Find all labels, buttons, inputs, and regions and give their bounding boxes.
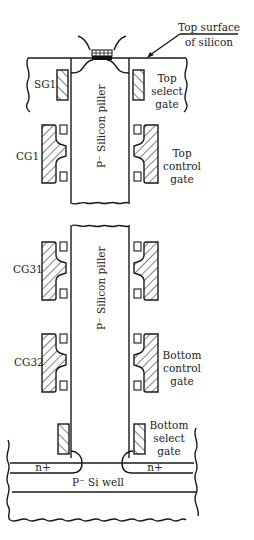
label-pillar-upper: P⁻ Silicon piller [95,83,107,168]
charge-trap-icon [60,242,67,251]
label-top-control-1: Top [172,147,192,159]
left-wavy-edge [27,58,30,112]
label-bottom-select-1: Bottom [150,419,189,431]
top-block: Top surface of silicon SG1 Top select ga… [16,21,240,204]
label-bottom-select-3: gate [157,445,180,457]
label-cg31: CG31 [13,263,43,275]
label-bottom-control-1: Bottom [163,349,202,361]
label-top-select-3: gate [155,98,178,110]
label-top-select-2: select [151,85,183,97]
charge-trap-icon [60,172,67,181]
lower-block: CG31 CG32 Bottom control gate Bottom sel… [7,225,202,521]
nand-cross-section-diagram: Top surface of silicon SG1 Top select ga… [0,0,254,540]
charge-trap-icon [60,334,67,343]
right-wavy-edge [184,58,187,112]
sg1-gate-left [57,70,68,100]
label-cg1: CG1 [16,150,39,162]
charge-trap-icon [134,242,141,251]
label-bottom-select-2: select [153,432,185,444]
label-sg1: SG1 [34,78,56,90]
substrate-left-edge [7,440,10,520]
label-n-plus-left: n+ [35,461,51,473]
label-top-surface-2: of silicon [185,36,233,48]
label-cg32: CG32 [14,356,44,368]
bitline-contact [78,36,126,60]
label-top-control-2: control [163,160,202,172]
label-pillar-lower: P⁻ Silicon piller [95,245,107,330]
substrate-right-edge [195,428,198,516]
charge-trap-icon [60,125,67,134]
charge-trap-icon [134,172,141,181]
charge-trap-icon [60,381,67,390]
sg1-gate-right [133,70,144,100]
label-bottom-control-3: gate [170,375,193,387]
bottom-select-gate-left [58,424,69,454]
drain-curve-left [71,60,93,73]
bottom-select-gate-right [134,424,145,454]
label-top-select-1: Top [157,72,177,84]
label-bottom-control-2: control [163,362,202,374]
label-si-well: P⁻ Si well [72,476,124,488]
charge-trap-icon [60,289,67,298]
charge-trap-icon [134,289,141,298]
substrate-bottom-edge [10,519,186,521]
drain-curve-right [107,60,129,73]
charge-trap-icon [134,334,141,343]
label-top-control-3: gate [170,173,193,185]
label-n-plus-right: n+ [147,461,163,473]
charge-trap-icon [134,381,141,390]
leader-arrow [150,34,180,55]
label-top-surface-1: Top surface [178,21,240,33]
charge-trap-icon [134,125,141,134]
